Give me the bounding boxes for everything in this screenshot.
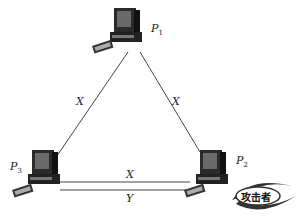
edge-label-p1-p2: X [172, 95, 180, 108]
edge-label-p3-p2-y: Y [126, 192, 133, 205]
edge-label-p1-p3: X [76, 95, 84, 108]
attacker-badge-label: 攻击者 [241, 189, 271, 204]
node-label-p3: P3 [10, 160, 22, 175]
network-diagram: P1 P2 P3 X X X Y 攻击者 [0, 0, 300, 222]
computer-p1-icon [92, 8, 142, 54]
node-label-p1-sub: 1 [158, 29, 162, 37]
edge-p1-p3 [50, 52, 128, 166]
node-label-p3-sub: 3 [17, 167, 21, 175]
node-label-p2-sub: 2 [243, 161, 247, 169]
edge-label-p3-p2-x: X [126, 168, 134, 181]
node-label-p2: P2 [236, 154, 248, 169]
edge-p1-p2 [140, 52, 200, 152]
computer-p2-icon [184, 150, 228, 198]
node-label-p1: P1 [151, 22, 163, 37]
